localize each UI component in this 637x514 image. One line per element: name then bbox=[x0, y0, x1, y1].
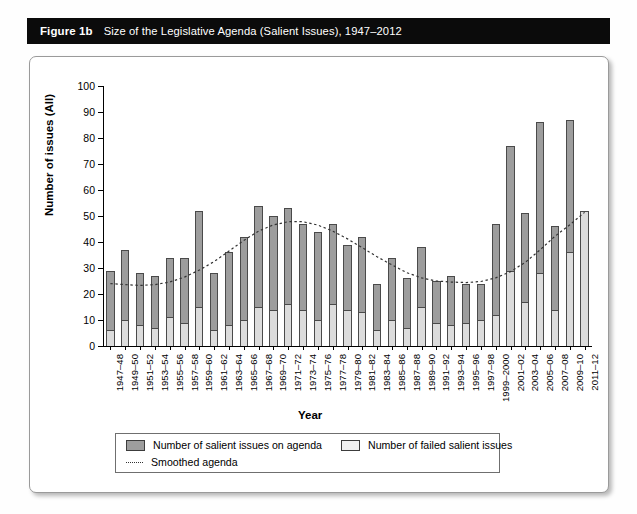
x-tick bbox=[422, 346, 423, 350]
x-tick bbox=[585, 346, 586, 350]
x-tick-label: 1999–2000 bbox=[500, 354, 511, 402]
x-tick-label: 2007–08 bbox=[559, 354, 570, 391]
x-tick bbox=[377, 346, 378, 350]
y-tick bbox=[98, 346, 103, 347]
x-tick bbox=[466, 346, 467, 350]
x-tick bbox=[155, 346, 156, 350]
x-tick-label: 1981–82 bbox=[366, 354, 377, 391]
x-tick bbox=[125, 346, 126, 350]
x-tick-label: 1995–96 bbox=[470, 354, 481, 391]
legend-item-smoothed: Smoothed agenda bbox=[126, 456, 238, 468]
light-square-swatch-icon bbox=[341, 440, 360, 451]
x-tick bbox=[362, 346, 363, 350]
x-tick bbox=[244, 346, 245, 350]
y-tick-label: 60 bbox=[83, 184, 95, 196]
y-tick-label: 10 bbox=[83, 314, 95, 326]
x-tick-label: 1983–84 bbox=[381, 354, 392, 391]
x-tick-label: 1961–62 bbox=[218, 354, 229, 391]
x-tick-label: 1987–88 bbox=[411, 354, 422, 391]
x-tick-label: 1953–54 bbox=[159, 354, 170, 391]
x-tick bbox=[214, 346, 215, 350]
x-tick bbox=[436, 346, 437, 350]
x-tick bbox=[511, 346, 512, 350]
x-tick bbox=[525, 346, 526, 350]
figure-number: Figure 1b bbox=[40, 25, 93, 37]
dotted-line-swatch-icon bbox=[126, 462, 143, 463]
x-tick bbox=[259, 346, 260, 350]
legend-label-smoothed: Smoothed agenda bbox=[151, 456, 238, 468]
x-tick-label: 1979–80 bbox=[352, 354, 363, 391]
x-tick bbox=[170, 346, 171, 350]
x-tick-label: 1973–74 bbox=[307, 354, 318, 391]
x-tick bbox=[348, 346, 349, 350]
x-tick bbox=[570, 346, 571, 350]
x-tick bbox=[318, 346, 319, 350]
x-tick-label: 1955–56 bbox=[174, 354, 185, 391]
legend-item-failed: Number of failed salient issues bbox=[341, 439, 512, 451]
x-tick-label: 1959–60 bbox=[203, 354, 214, 391]
x-tick bbox=[392, 346, 393, 350]
dark-square-swatch-icon bbox=[126, 440, 145, 451]
y-tick-label: 100 bbox=[77, 80, 95, 92]
x-tick-label: 1991–92 bbox=[440, 354, 451, 391]
x-tick bbox=[555, 346, 556, 350]
x-tick-label: 1969–70 bbox=[277, 354, 288, 391]
smoothed-agenda-line bbox=[103, 86, 592, 346]
x-tick-label: 1967–68 bbox=[263, 354, 274, 391]
x-tick-label: 1975–76 bbox=[322, 354, 333, 391]
y-tick-label: 40 bbox=[83, 236, 95, 248]
y-tick-label: 0 bbox=[89, 340, 95, 352]
x-tick-label: 1965–66 bbox=[248, 354, 259, 391]
x-tick-label: 1977–78 bbox=[337, 354, 348, 391]
x-tick-label: 2005–06 bbox=[544, 354, 555, 391]
figure-title: Size of the Legislative Agenda (Salient … bbox=[104, 25, 402, 37]
y-tick-label: 20 bbox=[83, 288, 95, 300]
x-tick-label: 2011–12 bbox=[589, 354, 600, 391]
legend-label-agenda: Number of salient issues on agenda bbox=[153, 439, 322, 451]
x-tick-label: 1997–98 bbox=[485, 354, 496, 391]
x-tick-label: 1971–72 bbox=[292, 354, 303, 391]
x-tick bbox=[110, 346, 111, 350]
x-tick bbox=[199, 346, 200, 350]
x-tick bbox=[140, 346, 141, 350]
legend-label-failed: Number of failed salient issues bbox=[368, 439, 512, 451]
y-tick-label: 90 bbox=[83, 106, 95, 118]
x-tick-label: 1949–50 bbox=[129, 354, 140, 391]
y-tick-label: 30 bbox=[83, 262, 95, 274]
x-tick-label: 1993–94 bbox=[455, 354, 466, 391]
x-tick-label: 1951–52 bbox=[144, 354, 155, 391]
x-tick-label: 2003–04 bbox=[529, 354, 540, 391]
chart-legend: Number of salient issues on agenda Numbe… bbox=[115, 433, 500, 473]
figure-caption-bar: Figure 1b Size of the Legislative Agenda… bbox=[27, 18, 610, 44]
x-tick-label: 1957–58 bbox=[189, 354, 200, 391]
y-tick-label: 70 bbox=[83, 158, 95, 170]
x-tick-label: 1989–90 bbox=[426, 354, 437, 391]
x-tick bbox=[481, 346, 482, 350]
x-tick-label: 1963–64 bbox=[233, 354, 244, 391]
legend-item-agenda: Number of salient issues on agenda bbox=[126, 439, 322, 451]
x-tick-label: 1947–48 bbox=[114, 354, 125, 391]
x-tick-label: 1985–86 bbox=[396, 354, 407, 391]
x-tick bbox=[496, 346, 497, 350]
x-axis-title: Year bbox=[298, 409, 322, 421]
x-tick bbox=[540, 346, 541, 350]
plot-area: 0102030405060708090100 1947–481949–50195… bbox=[103, 86, 592, 346]
y-tick-label: 80 bbox=[83, 132, 95, 144]
y-tick-label: 50 bbox=[83, 210, 95, 222]
x-tick bbox=[229, 346, 230, 350]
x-tick bbox=[333, 346, 334, 350]
x-tick bbox=[185, 346, 186, 350]
x-tick bbox=[273, 346, 274, 350]
y-axis-title: Number of issues (All) bbox=[43, 94, 55, 216]
x-tick bbox=[451, 346, 452, 350]
x-tick-label: 2009–10 bbox=[574, 354, 585, 391]
figure-root: Figure 1b Size of the Legislative Agenda… bbox=[0, 0, 637, 514]
x-tick bbox=[407, 346, 408, 350]
x-tick bbox=[288, 346, 289, 350]
x-tick-label: 2001–02 bbox=[515, 354, 526, 391]
x-tick bbox=[303, 346, 304, 350]
